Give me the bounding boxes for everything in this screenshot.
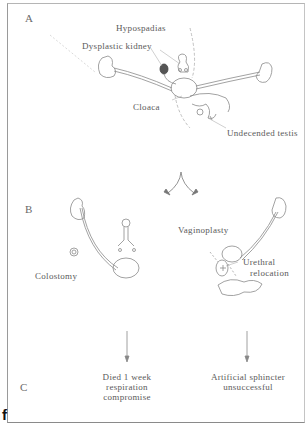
- relocation-label: relocation: [250, 268, 289, 278]
- dysplastic-kidney-label: Dysplastic kidney: [82, 41, 152, 51]
- outcome-arrows: [125, 331, 249, 362]
- cloaca-label: Cloaca: [133, 102, 160, 112]
- hypospadias-label: Hypospadias: [116, 23, 166, 33]
- panel-letter: f: [2, 406, 7, 423]
- undescended-testis-label: Undecended testis: [227, 128, 298, 138]
- split-arrows: [164, 172, 198, 195]
- left-outcome: Died 1 week respiration compromise: [97, 372, 157, 402]
- section-c-label: C: [20, 381, 27, 393]
- right-outcome-line-1: Artificial sphincter: [210, 372, 286, 382]
- bladder-icon: [222, 246, 242, 262]
- left-outcome-line-3: compromise: [97, 392, 157, 402]
- dysplastic-kidney-icon: [160, 64, 168, 74]
- left-kidney-icon: [98, 56, 115, 78]
- section-a-label: A: [25, 12, 33, 24]
- right-outcome-line-2: unsuccessful: [210, 382, 286, 392]
- colostomy-label: Colostomy: [35, 271, 77, 281]
- section-b-left-drawing: [70, 198, 139, 278]
- section-b-label: B: [25, 203, 32, 215]
- left-outcome-line-1: Died 1 week: [97, 372, 157, 382]
- left-outcome-line-2: respiration: [97, 382, 157, 392]
- bladder-icon: [113, 258, 139, 278]
- right-kidney-icon: [256, 63, 272, 83]
- undescended-testis-icon: [197, 109, 203, 115]
- right-outcome: Artificial sphincter unsuccessful: [210, 372, 286, 392]
- urethral-label: Urethral: [243, 257, 275, 267]
- anatomical-diagram: [0, 0, 307, 425]
- vaginoplasty-label: Vaginoplasty: [178, 225, 229, 235]
- section-b-right-drawing: [210, 198, 286, 296]
- colostomy-icon: [70, 248, 78, 256]
